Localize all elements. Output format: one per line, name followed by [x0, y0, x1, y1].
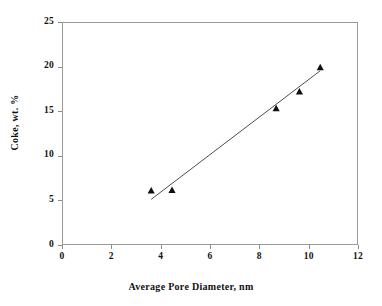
x-tick-mark: [210, 245, 211, 249]
y-tick-label: 25: [24, 16, 54, 26]
x-tick-mark: [309, 245, 310, 249]
data-point-marker: [168, 187, 175, 194]
x-axis-title: Average Pore Diameter, nm: [0, 281, 382, 292]
x-tick-label: 12: [343, 251, 373, 261]
chart-figure: Coke, wt. % 0510152025 024681012 Average…: [0, 0, 382, 306]
x-tick-mark: [62, 245, 63, 249]
x-tick-label: 6: [195, 251, 225, 261]
data-point-markers: [148, 64, 324, 194]
x-tick-label: 0: [47, 251, 77, 261]
plot-area: [62, 22, 358, 245]
y-axis-title-container: Coke, wt. %: [4, 0, 24, 245]
x-tick-label: 10: [294, 251, 324, 261]
x-tick-mark: [259, 245, 260, 249]
x-tick-label: 4: [146, 251, 176, 261]
trendline: [151, 71, 320, 200]
x-tick-mark: [358, 245, 359, 249]
y-tick-label: 15: [24, 105, 54, 115]
data-point-marker: [317, 64, 324, 71]
x-tick-mark: [111, 245, 112, 249]
y-tick-label: 10: [24, 149, 54, 159]
y-tick-label: 0: [24, 239, 54, 249]
x-tick-mark: [161, 245, 162, 249]
y-axis-title: Coke, wt. %: [9, 94, 20, 150]
y-tick-label: 5: [24, 194, 54, 204]
data-point-marker: [148, 187, 155, 194]
x-tick-label: 8: [244, 251, 274, 261]
x-tick-label: 2: [96, 251, 126, 261]
y-tick-label: 20: [24, 60, 54, 70]
data-layer: [63, 23, 357, 244]
